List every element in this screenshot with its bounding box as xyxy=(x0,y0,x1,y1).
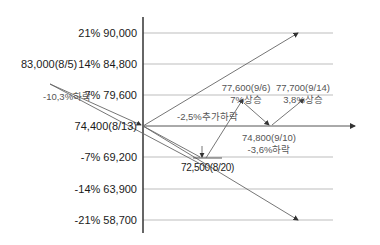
change-label-9-14: 3,8%상승 xyxy=(275,94,331,106)
change-label-9-6: 7%상승 xyxy=(220,94,272,106)
change-label-9-10: -3,6%하락 xyxy=(241,144,297,156)
change-label-8-13: -10,3%하락 xyxy=(43,91,91,103)
stock-price-chart: 21% 90,000 14% 84,800 7% 79,600 74,400(8… xyxy=(0,0,380,245)
y-tick-label: -21% 58,700 xyxy=(7,214,137,226)
y-tick-label: -7% 69,200 xyxy=(7,151,137,163)
point-label-8-5: 83,000(8/5) xyxy=(21,58,77,70)
y-tick-label: -14% 63,900 xyxy=(7,183,137,195)
change-label-8-20: -2,5%추가하락 xyxy=(177,111,238,123)
y-tick-label: 21% 90,000 xyxy=(7,27,137,39)
point-label-9-10: 74,800(9/10) xyxy=(241,132,297,144)
point-label-9-14: 77,700(9/14) xyxy=(275,82,331,94)
y-tick-label: 74,400(8/13) xyxy=(7,120,137,132)
point-label-9-6: 77,600(9/6) xyxy=(220,82,272,94)
point-label-8-20: 72,500(8/20) xyxy=(181,162,234,174)
